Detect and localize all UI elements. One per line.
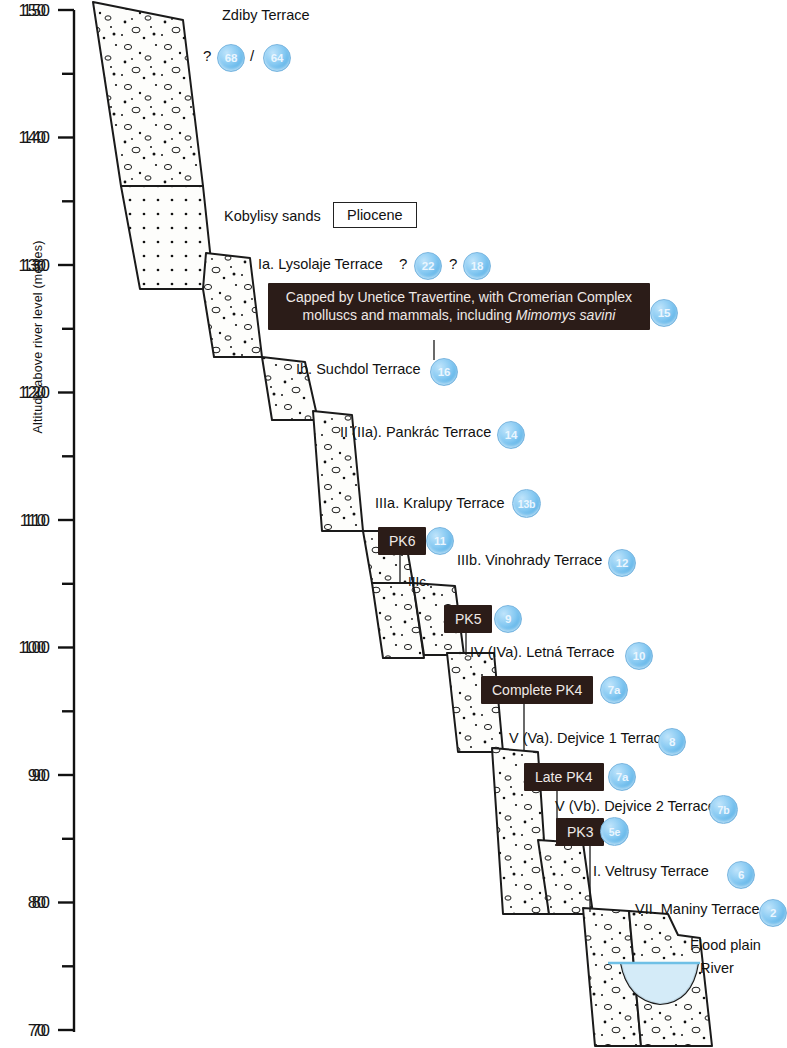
badge-late-pk4-7a[interactable]: 7a <box>608 763 636 791</box>
badge-callout-15[interactable]: 15 <box>650 299 678 327</box>
callout-unetice-travertine: Capped by Unetice Travertine, with Crome… <box>268 283 650 330</box>
badge-pk5-9[interactable]: 9 <box>494 605 522 633</box>
tick-150: 150 <box>18 1 46 20</box>
label-zdiby-terrace: Zdiby Terrace <box>222 8 310 23</box>
label-maniny-terrace: VII. Maniny Terrace <box>635 902 760 917</box>
badge-kralupy-13b[interactable]: 13b <box>512 489 541 518</box>
y-axis <box>58 10 74 1032</box>
badge-lysolaje-22[interactable]: 22 <box>414 252 442 280</box>
badge-complete-pk4-7a[interactable]: 7a <box>600 676 628 704</box>
callout-line-1: Capped by Unetice Travertine, with Crome… <box>286 289 632 305</box>
badge-dejvice1-8[interactable]: 8 <box>658 728 686 756</box>
soil-marker-pk6: PK6 <box>378 527 426 555</box>
badge-maniny-2[interactable]: 2 <box>759 899 787 927</box>
lysolaje-question-mark-1: ? <box>399 255 407 272</box>
tick-90: 90 <box>28 766 46 785</box>
tick-70: 70 <box>28 1021 46 1040</box>
label-letna-terrace: IV (IVa). Letná Terrace <box>470 645 615 660</box>
label-flood-plain: Flood plain <box>690 938 761 953</box>
badge-veltrusy-6[interactable]: 6 <box>727 861 755 889</box>
label-dejvice1-terrace: V (Va). Dejvice 1 Terrace <box>509 731 669 746</box>
age-box-pliocene: Pliocene <box>333 202 417 228</box>
tick-110: 110 <box>20 511 46 530</box>
badge-suchdol-16[interactable]: 16 <box>430 358 458 386</box>
label-lysolaje-terrace: Ia. Lysolaje Terrace <box>258 257 383 272</box>
label-river: River <box>700 961 734 976</box>
soil-marker-pk3: PK3 <box>556 818 604 846</box>
callout-line-2: molluscs and mammals, including <box>303 307 516 323</box>
label-veltrusy-terrace: I. Veltrusy Terrace <box>593 864 709 879</box>
tick-130: 130 <box>18 256 46 275</box>
badge-zdiby-64[interactable]: 64 <box>263 44 291 72</box>
tick-120: 120 <box>18 383 46 402</box>
tick-140: 140 <box>18 128 46 147</box>
badge-dejvice2-7b[interactable]: 7b <box>709 795 738 824</box>
label-kobylisy-sands: Kobylisy sands <box>224 209 321 224</box>
soil-marker-pk5: PK5 <box>444 605 492 633</box>
zdiby-question-mark: ? <box>203 47 211 64</box>
label-kralupy-terrace: IIIa. Kralupy Terrace <box>375 496 505 511</box>
badge-pankrac-14[interactable]: 14 <box>497 421 525 449</box>
callout-species-name: Mimomys savini <box>516 307 616 323</box>
badge-zdiby-68[interactable]: 68 <box>217 44 245 72</box>
soil-marker-late-pk4: Late PK4 <box>524 763 604 791</box>
label-iiic: IIIc. <box>408 575 430 589</box>
badge-pk3-5e[interactable]: 5e <box>600 817 629 846</box>
lysolaje-question-mark-2: ? <box>449 255 457 272</box>
label-vinohrady-terrace: IIIb. Vinohrady Terrace <box>457 553 602 568</box>
tick-80: 80 <box>28 893 46 912</box>
badge-lysolaje-18[interactable]: 18 <box>463 252 491 280</box>
label-dejvice2-terrace: V (Vb). Dejvice 2 Terrace <box>555 799 716 814</box>
tick-100: 100 <box>18 638 46 657</box>
badge-letna-10[interactable]: 10 <box>625 642 653 670</box>
label-pankrac-terrace: II (IIa). Pankrác Terrace <box>340 425 491 440</box>
label-suchdol-terrace: Ib. Suchdol Terrace <box>296 362 421 377</box>
tick-label-stack: 150 140 130 120 110 100 90 80 70 <box>0 0 52 1048</box>
badge-pk6-11[interactable]: 11 <box>426 527 454 555</box>
zdiby-separator: / <box>250 47 254 64</box>
badge-vinohrady-12[interactable]: 12 <box>608 549 636 577</box>
soil-marker-complete-pk4: Complete PK4 <box>481 676 593 704</box>
